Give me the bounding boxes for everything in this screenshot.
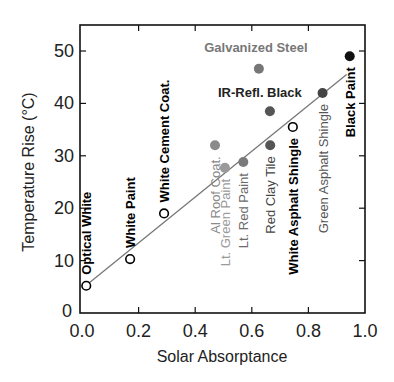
- scatter-chart: 01020304050 0.00.20.40.60.81.0 Optical W…: [0, 0, 394, 382]
- point-labels: Optical WhiteWhite PaintWhite Cement Coa…: [79, 40, 357, 275]
- point-lt-red-paint: [238, 157, 248, 167]
- label-lt-red-paint: Lt. Red Paint: [236, 173, 251, 249]
- label-galvanized-steel: Galvanized Steel: [204, 40, 307, 55]
- point-optical-white: [82, 281, 91, 290]
- x-tick-label: 0.4: [183, 321, 208, 341]
- point-galvanized-steel: [254, 64, 264, 74]
- x-tick-label: 0.8: [296, 321, 321, 341]
- x-tick-label: 0.0: [69, 321, 94, 341]
- label-optical-white: Optical White: [79, 192, 94, 275]
- point-ir-refl-black: [265, 106, 275, 116]
- label-white-paint: White Paint: [123, 177, 138, 248]
- y-tick-label: 50: [54, 41, 74, 61]
- point-al-roof-coat: [210, 140, 220, 150]
- x-axis-title: Solar Absorptance: [157, 348, 288, 365]
- y-tick-label: 40: [54, 93, 74, 113]
- point-white-asphalt-shingle: [289, 123, 298, 132]
- y-tick-label: 0: [62, 301, 72, 321]
- point-black-paint: [345, 51, 355, 61]
- label-white-asphalt-shingle: White Asphalt Shingle: [286, 138, 301, 275]
- y-axis-title: Temperature Rise (°C): [20, 92, 37, 251]
- label-black-paint: Black Paint: [343, 67, 358, 138]
- point-red-clay-tile: [265, 140, 275, 150]
- x-tick-label: 0.6: [239, 321, 264, 341]
- label-ir-refl-black: IR-Refl. Black: [218, 85, 303, 100]
- label-white-cement-coat: White Cement Coat.: [157, 80, 172, 203]
- y-tick-label: 30: [54, 146, 74, 166]
- label-green-asphalt-shingle: Green Asphalt Shingle: [316, 104, 331, 233]
- label-red-clay-tile: Red Clay Tile: [263, 156, 278, 233]
- point-white-cement-coat: [160, 209, 169, 218]
- y-tick-label: 10: [54, 251, 74, 271]
- point-green-asphalt-shingle: [318, 88, 328, 98]
- y-tick-label: 20: [54, 198, 74, 218]
- x-tick-label: 0.2: [126, 321, 151, 341]
- point-white-paint: [126, 255, 135, 264]
- label-lt-green-paint: Lt. Green Paint: [218, 178, 233, 266]
- point-lt-green-paint: [220, 163, 230, 173]
- x-tick-label: 1.0: [352, 321, 377, 341]
